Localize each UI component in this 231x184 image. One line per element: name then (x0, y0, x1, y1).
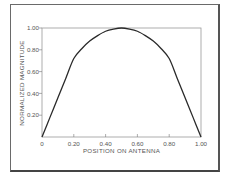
x-tick-label: 0 (40, 140, 44, 147)
y-tick-label: 0.80 (27, 46, 40, 53)
x-axis-title: POSITION ON ANTENNA (83, 147, 161, 154)
chart: 00.200.400.600.801.000.200.400.600.801.0… (0, 0, 231, 184)
y-tick-label: 1.00 (27, 24, 40, 31)
y-tick-label: 0.40 (27, 90, 40, 97)
magnitude-curve (42, 28, 201, 137)
y-tick-label: 0.20 (27, 111, 40, 118)
data-series (42, 28, 201, 137)
y-axis-title: NORMALIZED MAGNITUDE (18, 40, 25, 125)
x-tick-label: 1.00 (195, 140, 208, 147)
x-tick-label: 0.80 (163, 140, 176, 147)
x-tick-label: 0.40 (100, 140, 113, 147)
plot-border (42, 28, 201, 137)
x-tick-label: 0.20 (68, 140, 81, 147)
y-tick-label: 0.60 (27, 68, 40, 75)
x-tick-label: 0.60 (131, 140, 144, 147)
plot-area (42, 28, 201, 137)
